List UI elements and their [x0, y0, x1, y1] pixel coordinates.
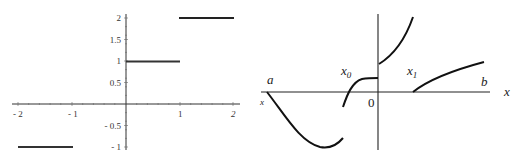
y-tick-label: 1	[117, 56, 122, 66]
x-tick-label: 1	[178, 109, 183, 119]
y-tick-label: 0.5	[110, 78, 122, 88]
label-x1: x1	[406, 63, 417, 80]
y-tick-label: 1.5	[110, 35, 122, 45]
figure: - 2 - 1 1 2 2 1.5 1 0.5 - 0.5 - 1 a b x0…	[0, 0, 514, 155]
x-tick-label: - 1	[68, 109, 78, 119]
label-a: a	[267, 72, 274, 87]
x-tick-label: 2	[231, 109, 236, 119]
label-x-axis: x	[503, 84, 510, 99]
step-function-chart: - 2 - 1 1 2 2 1.5 1 0.5 - 0.5 - 1	[12, 13, 240, 152]
label-small-x: x	[259, 97, 264, 107]
piecewise-function-chart: a b x0 x1 0 x x	[259, 14, 510, 150]
label-b: b	[481, 74, 488, 89]
curve-piece	[379, 17, 413, 64]
label-origin: 0	[368, 95, 375, 110]
x-tick-label: - 2	[13, 109, 23, 119]
y-tick-label: - 1	[111, 142, 121, 152]
y-tick-label: - 0.5	[105, 121, 122, 131]
y-tick-label: 2	[117, 13, 122, 23]
label-x0: x0	[340, 63, 352, 80]
curve-piece	[267, 92, 343, 147]
curve-piece	[413, 62, 484, 92]
